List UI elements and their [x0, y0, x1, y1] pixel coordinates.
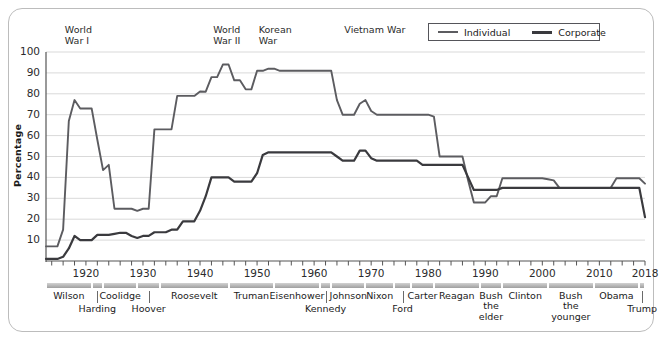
y-tick-90: 90 [10, 66, 40, 78]
x-tick-1960: 1960 [290, 267, 338, 279]
x-tick-1930: 1930 [119, 267, 167, 279]
president-label: Hoover [118, 304, 180, 314]
y-tick-80: 80 [10, 87, 40, 99]
war-annotation-2: Korean War [259, 25, 292, 46]
president-term-bar [435, 283, 479, 288]
legend-label-corporate: Corporate [558, 27, 606, 38]
president-term-bar [230, 283, 274, 288]
president-term-bar [138, 283, 159, 288]
president-term-bar [332, 283, 364, 288]
president-term-bar [93, 283, 102, 288]
chart-root: 102030405060708090100 192019301940195019… [0, 0, 664, 340]
president-label: Kennedy [295, 304, 357, 314]
president-term-bar [412, 283, 433, 288]
war-annotation-1: World War II [213, 25, 240, 46]
president-term-bar [395, 283, 410, 288]
legend-item-individual[interactable]: Individual [438, 27, 510, 38]
chart-legend: Individual Corporate [428, 23, 600, 41]
war-annotation-0: World War I [65, 25, 92, 46]
y-axis-title: Percentage [12, 124, 23, 187]
y-tick-20: 20 [10, 212, 40, 224]
x-tick-1970: 1970 [347, 267, 395, 279]
president-term-bar [161, 283, 227, 288]
war-annotation-3: Vietnam War [344, 25, 405, 36]
x-tick-1950: 1950 [233, 267, 281, 279]
x-tick-marks [52, 261, 645, 266]
series-line-corporate [46, 151, 645, 259]
legend-label-individual: Individual [464, 27, 510, 38]
x-tick-1990: 1990 [461, 267, 509, 279]
y-tick-10: 10 [10, 233, 40, 245]
president-term-bar [549, 283, 593, 288]
president-term-bar [503, 283, 547, 288]
x-tick-2000: 2000 [518, 267, 566, 279]
president-label: Coolidge [89, 291, 151, 301]
president-term-bar [275, 283, 319, 288]
president-term-bar [104, 283, 136, 288]
y-tick-100: 100 [10, 45, 40, 57]
president-label: Obama [585, 291, 647, 301]
corporate-line-swatch-icon [532, 31, 552, 34]
president-timeline: WilsonHardingCoolidgeHooverRooseveltTrum… [0, 283, 664, 338]
president-term-bar [640, 283, 644, 288]
individual-line-swatch-icon [438, 31, 458, 33]
president-term-bar [481, 283, 502, 288]
president-term-bar [366, 283, 393, 288]
x-tick-2018: 2018 [621, 267, 664, 279]
gridlines [46, 52, 645, 240]
president-leader-line [149, 291, 150, 303]
president-term-bar [595, 283, 639, 288]
y-tick-30: 30 [10, 191, 40, 203]
x-tick-1980: 1980 [404, 267, 452, 279]
y-tick-70: 70 [10, 108, 40, 120]
x-tick-1920: 1920 [62, 267, 110, 279]
legend-item-corporate[interactable]: Corporate [532, 27, 606, 38]
president-label: Roosevelt [163, 291, 225, 301]
president-label: Ford [372, 304, 434, 314]
president-term-bar [321, 283, 330, 288]
x-tick-1940: 1940 [176, 267, 224, 279]
x-tick-2010: 2010 [575, 267, 623, 279]
plot-area: 102030405060708090100 192019301940195019… [0, 0, 664, 340]
president-term-bar [47, 283, 91, 288]
president-leader-line [642, 291, 643, 303]
president-label: Trump [611, 304, 664, 314]
